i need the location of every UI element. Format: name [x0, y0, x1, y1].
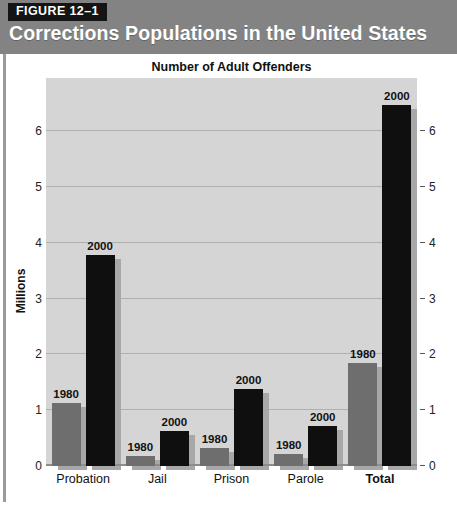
category-label-total: Total: [330, 472, 430, 486]
y-tick-left-6: 6: [18, 126, 42, 136]
bar-value-label-probation-1980: 1980: [43, 388, 89, 400]
y-tick-left-1: 1: [18, 405, 42, 415]
bar-group-jail: 19802000: [126, 78, 189, 466]
bar-value-label-prison-1980: 1980: [192, 433, 238, 445]
y-axis-left: 0123456: [12, 78, 42, 466]
y-tick-left-5: 5: [18, 182, 42, 192]
y-tick-right-4: 4: [429, 238, 453, 248]
bar-total-2000[interactable]: 2000: [382, 105, 411, 466]
y-tickmark-right-5: [420, 186, 425, 187]
figure-header: FIGURE 12–1 Corrections Populations in t…: [0, 0, 457, 54]
bar-fill: [160, 431, 189, 466]
bar-probation-2000[interactable]: 2000: [86, 255, 115, 466]
y-tick-right-0: 0: [429, 461, 453, 471]
figure-title: Corrections Populations in the United St…: [9, 22, 427, 45]
bar-group-parole: 19802000: [274, 78, 337, 466]
y-tick-left-3: 3: [18, 294, 42, 304]
figure-number-badge: FIGURE 12–1: [8, 3, 107, 21]
bar-value-label-total-1980: 1980: [340, 348, 386, 360]
bar-fill: [126, 456, 155, 466]
y-tickmark-right-6: [420, 130, 425, 131]
bar-fill: [234, 389, 263, 466]
bar-value-label-jail-1980: 1980: [117, 441, 163, 453]
bar-value-label-probation-2000: 2000: [77, 240, 123, 252]
y-axis-right: 0123456: [420, 78, 452, 466]
bar-group-total: 19802000: [348, 78, 411, 466]
bar-fill: [308, 426, 337, 466]
chart-frame: Number of Adult Offenders Millions 01234…: [3, 54, 454, 502]
bar-fill: [348, 363, 377, 466]
bar-parole-2000[interactable]: 2000: [308, 426, 337, 466]
y-tickmark-right-1: [420, 409, 425, 410]
bar-fill: [200, 448, 229, 466]
y-tickmark-right-3: [420, 298, 425, 299]
y-tick-right-3: 3: [429, 294, 453, 304]
bar-value-label-jail-2000: 2000: [151, 416, 197, 428]
bar-total-1980[interactable]: 1980: [348, 363, 377, 466]
y-tick-right-1: 1: [429, 405, 453, 415]
plot-area: 1980200019802000198020001980200019802000: [46, 78, 417, 466]
y-tick-right-5: 5: [429, 182, 453, 192]
bar-fill: [86, 255, 115, 466]
bar-prison-1980[interactable]: 1980: [200, 448, 229, 466]
y-tick-right-6: 6: [429, 126, 453, 136]
bar-fill: [382, 105, 411, 466]
bar-value-label-prison-2000: 2000: [226, 374, 272, 386]
y-tick-right-2: 2: [429, 349, 453, 359]
bar-value-label-parole-1980: 1980: [266, 439, 312, 451]
bar-probation-1980[interactable]: 1980: [52, 403, 81, 466]
bar-prison-2000[interactable]: 2000: [234, 389, 263, 466]
bar-fill: [274, 454, 303, 466]
chart-title: Number of Adult Offenders: [6, 60, 457, 74]
y-tickmark-right-2: [420, 353, 425, 354]
y-tick-left-4: 4: [18, 238, 42, 248]
bar-value-label-parole-2000: 2000: [300, 411, 346, 423]
bar-jail-1980[interactable]: 1980: [126, 456, 155, 466]
bar-group-probation: 19802000: [52, 78, 115, 466]
y-tickmark-right-4: [420, 242, 425, 243]
bar-jail-2000[interactable]: 2000: [160, 431, 189, 466]
y-tick-left-0: 0: [18, 461, 42, 471]
bar-value-label-total-2000: 2000: [374, 90, 420, 102]
bar-fill: [52, 403, 81, 466]
y-tickmark-right-0: [420, 465, 425, 466]
bar-parole-1980[interactable]: 1980: [274, 454, 303, 466]
bar-group-prison: 19802000: [200, 78, 263, 466]
y-tick-left-2: 2: [18, 349, 42, 359]
